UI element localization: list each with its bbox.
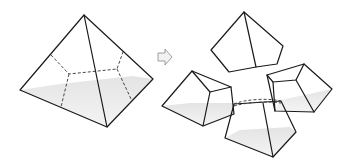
diagram-canvas: whole pyramid with cut lines exploded pi… [0,0,346,167]
base-shading [20,76,153,127]
dissection-diagram [0,0,346,167]
cut-line-upper [51,52,123,74]
top-piece [211,12,283,72]
whole-pyramid [20,15,153,127]
left-piece [162,71,234,126]
right-piece [267,64,332,112]
right-arrow-icon [158,49,172,65]
